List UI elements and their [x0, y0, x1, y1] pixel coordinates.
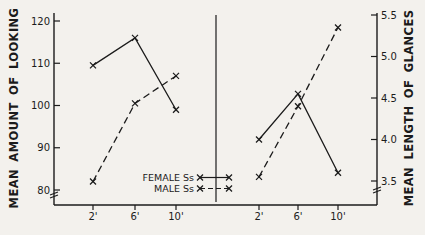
- left-axis-title: MEAN AMOUNT OF LOOKING: [7, 8, 21, 209]
- right-axis-title: MEAN LENGTH OF GLANCES: [402, 10, 416, 207]
- mean-amount-of-looking-female-line: [93, 38, 176, 110]
- left-axis-tick-label: 90: [37, 142, 50, 153]
- left-axis-tick-label: 80: [37, 185, 50, 196]
- figure: MEAN AMOUNT OF LOOKING MEAN LENGTH OF GL…: [0, 0, 425, 235]
- left-axis-tick-label: 110: [31, 58, 50, 69]
- right-axis-tick-label: 5.0: [381, 51, 397, 62]
- x-axis-tick-label: 2': [88, 211, 97, 222]
- right-axis-tick-label: 3.5: [381, 176, 397, 187]
- legend-label: FEMALE Ss: [143, 172, 195, 183]
- mean-length-of-glances-male-line: [259, 27, 338, 176]
- x-axis-tick-label: 2': [254, 211, 263, 222]
- left-axis-tick-label: 100: [31, 100, 50, 111]
- left-axis-tick-label: 120: [31, 16, 50, 27]
- right-axis-tick-label: 5.5: [381, 10, 397, 21]
- legend-label: MALE Ss: [154, 183, 194, 194]
- x-axis-tick-label: 10': [330, 211, 345, 222]
- mean-amount-of-looking-male-line: [93, 76, 176, 182]
- x-axis-tick-label: 10': [168, 211, 183, 222]
- x-axis-tick-label: 6': [293, 211, 302, 222]
- x-axis-tick-label: 6': [130, 211, 139, 222]
- right-axis-tick-label: 4.5: [381, 93, 397, 104]
- right-axis-tick-label: 4.0: [381, 134, 397, 145]
- dual-panel-line-chart: 12011010090805.55.04.54.03.52'6'10'2'6'1…: [0, 0, 425, 235]
